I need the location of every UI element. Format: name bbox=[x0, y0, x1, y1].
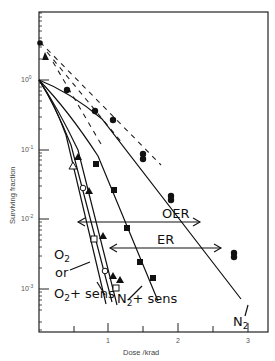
svg-text:3: 3 bbox=[246, 337, 250, 344]
svg-text:N2+ sens: N2+ sens bbox=[117, 291, 178, 308]
plot-frame bbox=[39, 12, 268, 332]
svg-text:1: 1 bbox=[106, 337, 110, 344]
y-axis-ticks bbox=[39, 13, 49, 330]
n2-markers bbox=[37, 40, 237, 260]
svg-text:O2+ sens: O2+ sens bbox=[54, 286, 115, 303]
survival-curve-chart: 100 10-1 10-2 10-3 1 2 3 Dose /krad Surv… bbox=[0, 0, 275, 361]
er-label: ER bbox=[157, 232, 174, 247]
x-tick-labels: 1 2 3 bbox=[106, 337, 250, 344]
svg-text:O2: O2 bbox=[54, 247, 70, 264]
y-tick-labels: 100 10-1 10-2 10-3 bbox=[21, 74, 33, 292]
svg-text:2: 2 bbox=[176, 337, 180, 344]
o2-sens-open-square-marker bbox=[91, 236, 97, 242]
y-axis-title: Surviving fraction bbox=[8, 166, 17, 224]
svg-text:10-3: 10-3 bbox=[21, 283, 33, 292]
svg-text:10-2: 10-2 bbox=[21, 213, 33, 222]
o2-curve bbox=[39, 80, 112, 302]
svg-text:10-1: 10-1 bbox=[21, 144, 33, 153]
oer-label: OER bbox=[162, 206, 189, 221]
svg-text:100: 100 bbox=[21, 74, 32, 83]
x-axis-title: Dose /krad bbox=[123, 348, 159, 357]
x-axis-ticks bbox=[74, 323, 248, 332]
n2-curve bbox=[39, 80, 241, 299]
fit-curves bbox=[39, 80, 248, 316]
o2-open-circle-marker bbox=[102, 268, 108, 274]
o2-open-circle-marker bbox=[80, 185, 86, 191]
svg-text:or: or bbox=[55, 265, 69, 280]
svg-text:N2: N2 bbox=[233, 314, 248, 331]
curve-labels: O2 or O2+ sens N2+ sens N2 bbox=[54, 247, 248, 331]
extrapolation-lines bbox=[40, 42, 161, 165]
